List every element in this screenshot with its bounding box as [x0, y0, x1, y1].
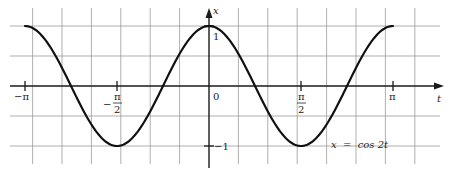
x-tick-label-pi: π	[389, 91, 396, 102]
y-tick-label-1: 1	[213, 31, 219, 42]
y-tick-label-neg1: −1	[214, 141, 229, 152]
t-axis-arrow-icon	[434, 83, 444, 90]
x-tick-label-pi-2-num: π	[298, 91, 305, 102]
plot-area: x 1 0 −1 t −π − π 2 π 2 π x = cos 2t	[0, 0, 449, 173]
cosine-chart: x 1 0 −1 t −π − π 2 π 2 π x = cos 2t	[0, 0, 449, 173]
x-tick-label-pi-2-den: 2	[298, 104, 304, 115]
x-tick-label-neg-pi-2-num: π	[114, 91, 121, 102]
x-axis-arrow-icon	[206, 8, 213, 18]
origin-label: 0	[213, 91, 219, 102]
x-tick-label-neg-pi: −π	[14, 91, 29, 102]
x-tick-label-neg-pi-2-den: 2	[114, 104, 120, 115]
x-tick-label-neg-pi-2-sign: −	[103, 99, 111, 110]
curve-equation-label: x = cos 2t	[331, 139, 389, 150]
x-axis-label: x	[213, 5, 219, 16]
t-axis-label: t	[437, 93, 442, 104]
